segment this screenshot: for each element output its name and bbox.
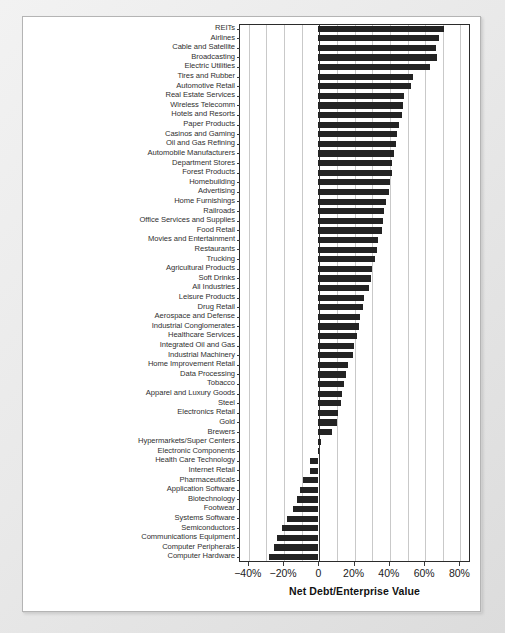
- category-label: Electronics Retail: [177, 407, 235, 417]
- x-axis-tick: [248, 562, 249, 566]
- bar: [318, 323, 359, 329]
- chart-row: Internet Retail: [22, 466, 481, 476]
- category-label: Hotels and Resorts: [171, 109, 235, 119]
- category-label: Paper Products: [183, 119, 235, 129]
- bar: [318, 170, 391, 176]
- category-label: Trucking: [207, 254, 235, 264]
- y-axis-tick: [237, 442, 240, 443]
- chart-page: REITsAirlinesCable and SatelliteBroadcas…: [0, 0, 505, 633]
- chart-row: Casinos and Gaming: [22, 130, 481, 140]
- bar: [318, 352, 352, 358]
- bar: [318, 429, 332, 435]
- chart-row: Electric Utilities: [22, 62, 481, 72]
- chart-row: Industrial Machinery: [22, 351, 481, 361]
- y-axis-tick: [237, 86, 240, 87]
- chart-row: Department Stores: [22, 159, 481, 169]
- bar: [318, 333, 357, 339]
- chart-row: Pharmaceuticals: [22, 476, 481, 486]
- category-label: Computer Hardware: [167, 551, 235, 561]
- chart-row: Drug Retail: [22, 303, 481, 313]
- chart-row: Broadcasting: [22, 53, 481, 63]
- bar: [318, 362, 348, 368]
- category-label: Computer Peripherals: [162, 542, 235, 552]
- y-axis-tick: [237, 518, 240, 519]
- bar: [318, 295, 364, 301]
- category-label: Data Processing: [180, 369, 235, 379]
- y-axis-tick: [237, 249, 240, 250]
- bar: [318, 448, 319, 454]
- category-label: REITs: [215, 23, 235, 33]
- category-label: Hypermarkets/Super Centers: [138, 436, 235, 446]
- category-label: Broadcasting: [191, 52, 235, 62]
- chart-row: Semiconductors: [22, 524, 481, 534]
- chart-row: Brewers: [22, 428, 481, 438]
- bar: [310, 458, 318, 464]
- category-label: Oil and Gas Refining: [166, 138, 235, 148]
- chart-row: Restaurants: [22, 245, 481, 255]
- chart-row: Electronics Retail: [22, 408, 481, 418]
- bar: [287, 516, 318, 522]
- y-axis-tick: [237, 490, 240, 491]
- chart-row: Leisure Products: [22, 293, 481, 303]
- y-axis-tick: [237, 394, 240, 395]
- y-axis-tick: [237, 538, 240, 539]
- chart-row: Cable and Satellite: [22, 43, 481, 53]
- y-axis-tick: [237, 298, 240, 299]
- category-label: Automotive Retail: [176, 81, 235, 91]
- y-axis-tick: [237, 48, 240, 49]
- chart-row: Computer Hardware: [22, 552, 481, 562]
- y-axis-tick: [237, 211, 240, 212]
- category-label: Industrial Conglomerates: [152, 321, 235, 331]
- y-axis-tick: [237, 173, 240, 174]
- category-label: Tires and Rubber: [177, 71, 235, 81]
- bar: [318, 208, 383, 214]
- x-axis-tick-label: 0: [315, 567, 321, 579]
- bar: [318, 314, 359, 320]
- chart-row: Health Care Technology: [22, 456, 481, 466]
- category-label: Healthcare Services: [168, 330, 235, 340]
- y-axis-tick: [237, 451, 240, 452]
- x-axis-tick-label: 60%: [414, 567, 435, 579]
- category-label: Department Stores: [172, 158, 235, 168]
- category-label: Tobacco: [207, 378, 235, 388]
- chart-row: Forest Products: [22, 168, 481, 178]
- x-axis-tick: [318, 562, 319, 566]
- bar: [318, 439, 321, 445]
- y-axis-tick: [237, 115, 240, 116]
- y-axis-tick: [237, 192, 240, 193]
- category-label: Semiconductors: [181, 523, 235, 533]
- chart-row: Computer Peripherals: [22, 543, 481, 553]
- chart-row: Wireless Telecomm: [22, 101, 481, 111]
- category-label: Office Services and Supplies: [139, 215, 235, 225]
- y-axis-tick: [237, 499, 240, 500]
- chart-row: Food Retail: [22, 226, 481, 236]
- bar: [318, 227, 381, 233]
- chart-row: Real Estate Services: [22, 91, 481, 101]
- x-axis-tick-label: 40%: [378, 567, 399, 579]
- y-axis-tick: [237, 259, 240, 260]
- bar: [318, 179, 389, 185]
- category-label: Casinos and Gaming: [165, 129, 235, 139]
- chart-row: Advertising: [22, 187, 481, 197]
- x-axis-tick: [424, 562, 425, 566]
- bar: [318, 400, 341, 406]
- category-label: Electric Utilities: [184, 61, 235, 71]
- bar: [318, 102, 403, 108]
- category-label: Electronic Components: [158, 446, 235, 456]
- bar: [297, 496, 318, 502]
- category-label: Homebuilding: [189, 177, 235, 187]
- bar: [318, 247, 376, 253]
- category-label: Industrial Machinery: [168, 350, 235, 360]
- category-label: Airlines: [211, 33, 236, 43]
- y-axis-tick: [237, 374, 240, 375]
- category-label: Apparel and Luxury Goods: [146, 388, 235, 398]
- category-label: Agricultural Products: [166, 263, 235, 273]
- bar: [269, 554, 318, 560]
- category-label: Gold: [219, 417, 235, 427]
- bar: [318, 64, 430, 70]
- chart-row: Automobile Manufacturers: [22, 149, 481, 159]
- bar: [293, 506, 319, 512]
- chart-row: Communications Equipment: [22, 533, 481, 543]
- category-label: Home Furnishings: [174, 196, 235, 206]
- bar: [310, 468, 319, 474]
